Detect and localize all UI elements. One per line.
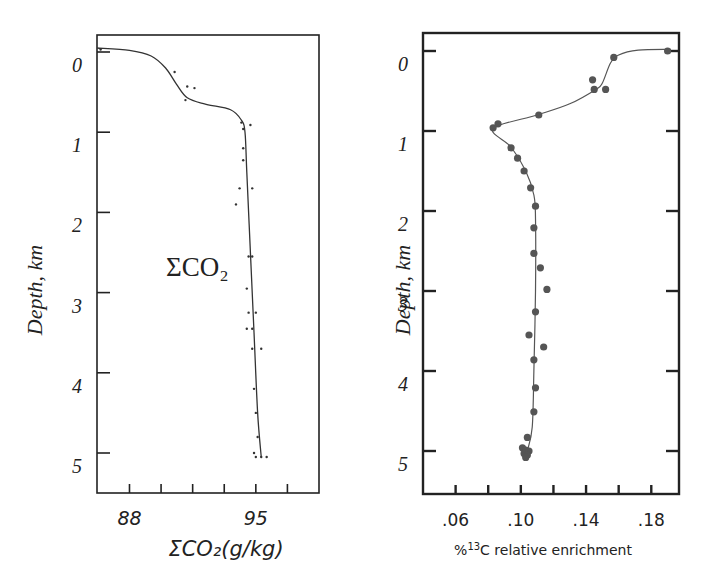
data-point — [251, 348, 253, 350]
y-axis-label: Depth, km — [390, 245, 415, 336]
right-chart-c13-enrichment: 012345.06.10.14.18Depth, km%13C relative… — [390, 33, 679, 558]
data-point — [540, 343, 547, 350]
data-point — [247, 311, 249, 313]
data-point — [525, 331, 532, 338]
data-point — [173, 71, 175, 73]
x-tick-label: .10 — [507, 510, 534, 530]
y-tick-label: 0 — [398, 53, 408, 75]
data-point — [543, 286, 550, 293]
data-point — [251, 255, 253, 257]
y-tick-label: 4 — [72, 375, 82, 397]
data-point — [522, 454, 529, 461]
data-point — [256, 436, 258, 438]
data-point — [602, 86, 609, 93]
y-tick-label: 2 — [72, 214, 82, 236]
y-tick-label: 0 — [72, 54, 82, 76]
data-point — [265, 456, 267, 458]
data-point — [242, 147, 244, 149]
y-tick-label: 2 — [398, 213, 408, 235]
data-point — [530, 224, 537, 231]
y-tick-label: 3 — [71, 295, 82, 317]
data-point — [246, 287, 248, 289]
y-axis-label: Depth, km — [22, 245, 47, 336]
figure-canvas: 0123458895Depth, kmΣCO₂(g/kg)ΣCO₂ 012345… — [0, 0, 702, 583]
data-point — [589, 76, 596, 83]
data-point — [255, 456, 257, 458]
plot-frame — [423, 33, 679, 494]
data-point — [537, 264, 544, 271]
data-point — [246, 327, 248, 329]
left-chart-sigma-co2: 0123458895Depth, kmΣCO₂(g/kg)ΣCO₂ — [22, 35, 319, 561]
data-point — [260, 348, 262, 350]
x-tick-label: .18 — [638, 510, 665, 530]
data-point — [530, 250, 537, 257]
x-tick-label: 88 — [117, 507, 141, 529]
y-tick-label: 5 — [398, 453, 408, 475]
x-tick-label: .06 — [442, 510, 469, 530]
data-point — [664, 47, 671, 54]
x-tick-label: .14 — [573, 510, 600, 530]
data-point — [249, 124, 251, 126]
x-tick-label: 95 — [244, 507, 268, 529]
data-point — [238, 187, 240, 189]
data-point — [186, 85, 188, 87]
data-point — [235, 203, 237, 205]
fitted-profile-line — [492, 49, 670, 451]
data-point — [251, 327, 253, 329]
data-point — [253, 452, 255, 454]
y-tick-label: 4 — [398, 373, 408, 395]
y-tick-label: 5 — [72, 455, 82, 477]
y-tick-label: 1 — [72, 134, 82, 156]
data-point — [184, 99, 186, 101]
x-axis-label: ΣCO₂(g/kg) — [168, 537, 283, 561]
data-point — [253, 388, 255, 390]
data-point — [530, 408, 537, 415]
data-point — [255, 412, 257, 414]
data-point — [242, 159, 244, 161]
x-axis-label: %13C relative enrichment — [454, 541, 632, 559]
data-point — [255, 311, 257, 313]
data-point — [193, 87, 195, 89]
y-tick-label: 1 — [398, 133, 408, 155]
data-point — [247, 255, 249, 257]
data-point — [251, 187, 253, 189]
series-annotation: ΣCO₂ — [166, 252, 229, 282]
